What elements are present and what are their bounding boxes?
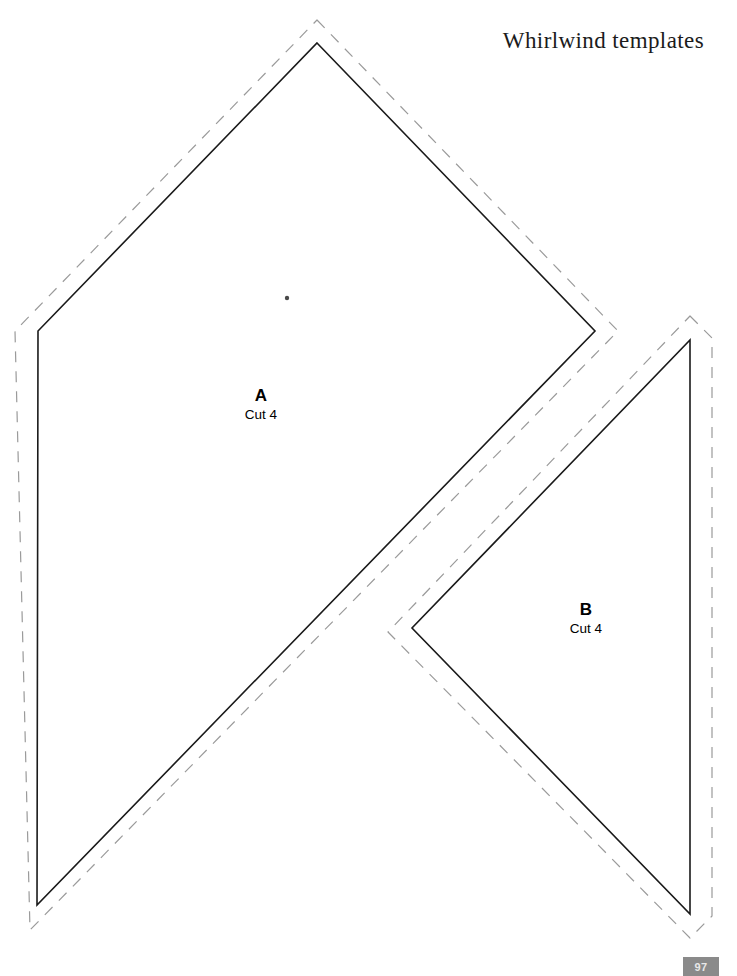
piece-a-label: A Cut 4 [201, 386, 321, 424]
piece-b-letter: B [526, 600, 646, 620]
piece-a-letter: A [201, 386, 321, 406]
piece-a-solid-cut-outline [37, 43, 595, 905]
piece-b-cut-instruction: Cut 4 [526, 620, 646, 638]
page-number-badge: 97 [683, 957, 719, 976]
template-page: Whirlwind templates A Cut 4 B Cut 4 97 [0, 0, 737, 976]
piece-a-dashed-seam-outline [15, 20, 618, 930]
piece-a-cut-instruction: Cut 4 [201, 406, 321, 424]
template-shapes-canvas [0, 0, 737, 976]
piece-a-center-dot [285, 296, 289, 300]
piece-b-label: B Cut 4 [526, 600, 646, 638]
page-title: Whirlwind templates [503, 28, 704, 54]
